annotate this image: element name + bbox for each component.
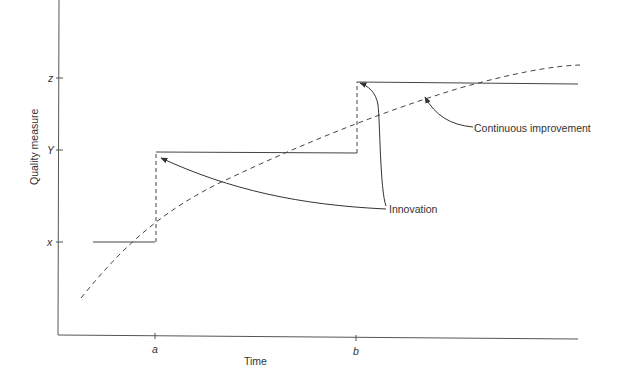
x-tick-label-a: a — [152, 343, 158, 355]
innovation-arrow-a — [161, 158, 386, 209]
x-tick-label-b: b — [353, 345, 359, 357]
x-axis-label: Time — [244, 355, 267, 367]
y-tick-label-x: x — [46, 236, 53, 248]
continuous-arrow — [425, 97, 473, 127]
innovation-step-line-2 — [156, 152, 357, 153]
y-axis — [58, 0, 59, 335]
x-axis — [58, 335, 578, 339]
axes — [56, 0, 578, 341]
y-axis-label: Quality measure — [28, 108, 40, 185]
y-tick-label-z: z — [47, 72, 54, 84]
continuous-improvement-label: Continuous improvement — [474, 122, 591, 134]
innovation-label: Innovation — [389, 203, 438, 215]
innovation-series — [93, 82, 578, 242]
innovation-step-line-3 — [357, 82, 578, 84]
continuous-improvement-curve — [81, 65, 580, 298]
y-tick-label-Y: Y — [47, 144, 55, 156]
quality-chart: z Y x a b Time Quality measure Innovatio… — [0, 0, 618, 380]
innovation-arrow-b — [360, 83, 386, 206]
